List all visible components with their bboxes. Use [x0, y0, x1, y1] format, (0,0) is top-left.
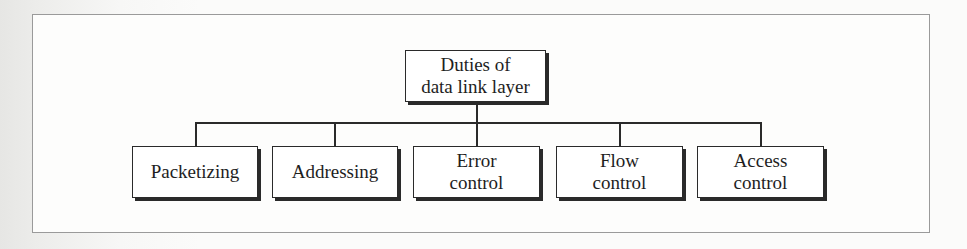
connector-drop-access-control	[760, 122, 762, 146]
child-node-access-control: Access control	[697, 146, 824, 198]
connector-root-stem	[476, 102, 478, 124]
connector-drop-addressing	[334, 122, 336, 146]
root-node-line-2: data link layer	[421, 76, 530, 98]
child-node-label-line-1: Flow	[600, 150, 639, 172]
root-node-line-1: Duties of	[440, 54, 510, 76]
child-node-label-line-1: Error	[456, 150, 496, 172]
child-node-label-line-2: control	[450, 172, 504, 194]
connector-drop-error-control	[476, 122, 478, 146]
connector-drop-packetizing	[195, 122, 197, 146]
child-node-flow-control: Flow control	[556, 146, 683, 198]
connector-drop-flow-control	[619, 122, 621, 146]
child-node-addressing: Addressing	[272, 146, 398, 198]
child-node-label-line-2: control	[734, 172, 788, 194]
child-node-label: Packetizing	[151, 161, 240, 183]
root-node-duties: Duties of data link layer	[405, 50, 546, 102]
child-node-label: Addressing	[292, 161, 379, 183]
child-node-label-line-2: control	[593, 172, 647, 194]
child-node-error-control: Error control	[413, 146, 540, 198]
connector-horizontal-bar	[195, 122, 762, 124]
child-node-label-line-1: Access	[734, 150, 788, 172]
child-node-packetizing: Packetizing	[132, 146, 258, 198]
